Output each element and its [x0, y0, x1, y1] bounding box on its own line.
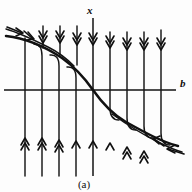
up-arrow-icon-7	[123, 147, 131, 159]
axis-label-x: x	[86, 4, 93, 16]
equilibrium-curve	[6, 36, 178, 146]
flow-line-2	[34, 44, 42, 176]
phase-portrait-svg: x b (a)	[0, 0, 192, 192]
flow-line-4	[67, 67, 76, 176]
phase-portrait-figure: x b (a)	[0, 0, 192, 192]
figure-caption: (a)	[78, 178, 91, 191]
axis-label-b: b	[180, 77, 186, 89]
flow-line-3	[50, 55, 59, 176]
up-arrow-icon-8	[140, 151, 148, 163]
up-arrow-icon-6	[106, 143, 114, 150]
